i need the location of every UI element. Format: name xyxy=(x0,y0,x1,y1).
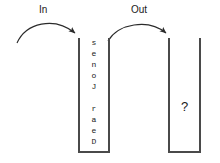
stack-char xyxy=(80,92,108,103)
out-label: Out xyxy=(131,5,147,15)
input-stack-container: Dear Jones xyxy=(78,38,110,153)
out-arrow-icon xyxy=(108,24,166,41)
stack-char: n xyxy=(80,59,108,70)
stack-char: e xyxy=(80,125,108,136)
stack-diagram: In Out Dear Jones ? xyxy=(0,0,220,163)
input-stack-items: Dear Jones xyxy=(80,37,108,147)
stack-char: J xyxy=(80,81,108,92)
stack-char: r xyxy=(80,103,108,114)
stack-char: e xyxy=(80,48,108,59)
in-label: In xyxy=(39,5,47,15)
stack-char: o xyxy=(80,70,108,81)
stack-char: a xyxy=(80,114,108,125)
output-stack-container: ? xyxy=(168,38,201,153)
stack-char: s xyxy=(80,37,108,48)
stack-char: D xyxy=(80,136,108,147)
output-stack-placeholder: ? xyxy=(170,100,199,113)
in-arrow-icon xyxy=(17,23,75,43)
